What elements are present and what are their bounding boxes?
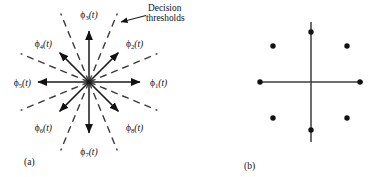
label-phi-4: ϕ4(t) [35, 39, 52, 50]
constellation-point-7 [308, 127, 313, 132]
constellation-point-2 [344, 43, 349, 48]
label-phi-4-arg: (t) [43, 39, 52, 50]
constellation-point-6 [270, 115, 275, 120]
label-phi-3-arg: (t) [89, 10, 98, 21]
callout-leader-line [121, 16, 146, 23]
label-phi-1: ϕ1(t) [150, 78, 167, 89]
panel-b: (b) [244, 22, 363, 172]
ray-phi-8 [89, 82, 118, 111]
panel-a: ϕ1(t) ϕ2(t) ϕ3(t) ϕ4(t) ϕ5(t) ϕ6(t) [14, 3, 185, 168]
decision-thresholds-callout: Decision thresholds [121, 3, 185, 23]
callout-text-line-1: Decision [148, 3, 182, 13]
label-phi-8: ϕ8(t) [126, 123, 143, 134]
constellation-point-8 [344, 115, 349, 120]
label-phi-2: ϕ2(t) [126, 39, 143, 50]
basis-function-rays [38, 31, 140, 133]
constellation-point-1 [357, 79, 362, 84]
label-phi-2-arg: (t) [134, 39, 143, 50]
label-phi-6: ϕ6(t) [35, 123, 52, 134]
label-phi-6-arg: (t) [43, 123, 52, 134]
figure-8psk-signal-space: ϕ1(t) ϕ2(t) ϕ3(t) ϕ4(t) ϕ5(t) ϕ6(t) [0, 0, 381, 177]
caption-panel-a: (a) [24, 157, 35, 168]
constellation-point-5 [257, 79, 262, 84]
ray-phi-2 [89, 53, 118, 82]
constellation-point-3 [308, 29, 313, 34]
ray-phi-4 [60, 53, 89, 82]
label-phi-7-arg: (t) [89, 147, 98, 158]
ray-phi-6 [60, 82, 89, 111]
label-phi-1-arg: (t) [158, 78, 167, 89]
label-phi-3: ϕ3(t) [80, 10, 97, 21]
figure-canvas: ϕ1(t) ϕ2(t) ϕ3(t) ϕ4(t) ϕ5(t) ϕ6(t) [0, 0, 381, 177]
label-phi-8-arg: (t) [134, 123, 143, 134]
constellation-points [257, 29, 362, 132]
callout-text-line-2: thresholds [146, 13, 185, 23]
label-phi-5-arg: (t) [22, 78, 31, 89]
constellation-point-4 [270, 43, 275, 48]
label-phi-5: ϕ5(t) [14, 78, 31, 89]
label-phi-7: ϕ7(t) [80, 147, 97, 158]
caption-panel-b: (b) [244, 161, 255, 172]
